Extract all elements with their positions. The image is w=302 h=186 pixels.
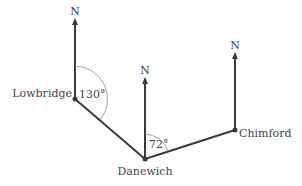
- north-arrow-icon: [142, 77, 148, 84]
- place-label-chimford: Chimford: [239, 127, 291, 140]
- point-chimford: [233, 128, 238, 133]
- point-lowbridge: [73, 97, 78, 102]
- north-arrow-icon: [232, 52, 238, 59]
- place-label-lowbridge: Lowbridge: [12, 87, 72, 100]
- north-arrow-icon: [72, 18, 78, 25]
- point-danewich: [143, 157, 148, 162]
- north-label-lowbridge: N: [70, 5, 80, 18]
- north-label-danewich: N: [140, 64, 150, 77]
- bearing-diagram: N N N Lowbridge Danewich Chimford 130° 7…: [0, 0, 302, 186]
- angle-label-lowbridge: 130°: [79, 88, 106, 101]
- angle-label-danewich: 72°: [149, 138, 169, 151]
- route-lowbridge-danewich: [75, 99, 145, 159]
- place-label-danewich: Danewich: [117, 165, 172, 178]
- north-label-chimford: N: [230, 39, 240, 52]
